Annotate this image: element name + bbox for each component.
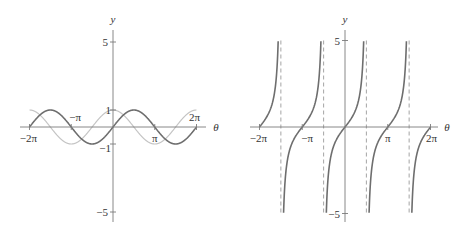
right-x-axis-label: θ	[444, 121, 450, 133]
right-x-tick-label: π	[385, 132, 391, 144]
tan-curve	[260, 41, 279, 127]
left-x-tick-label: π	[152, 132, 158, 144]
left-x-axis-label: θ	[213, 121, 219, 133]
left-labels: yθ−2π−ππ2π51−1−5	[20, 13, 219, 218]
right-labels: yθ−2π−ππ2π5−5	[250, 13, 450, 220]
left-y-tick-label: 5	[103, 36, 109, 48]
right-y-axis-label: y	[342, 13, 348, 25]
left-y-tick-label: 1	[106, 104, 112, 116]
left-y-tick-label: −1	[99, 142, 111, 154]
chart-canvas: yθ−2π−ππ2π51−1−5 yθ−2π−ππ2π5−5	[0, 0, 466, 232]
right-y-tick-label: −5	[328, 208, 340, 220]
right-x-tick-label: −2π	[250, 132, 268, 144]
left-x-tick-label: −2π	[20, 132, 38, 144]
right-x-tick-label: −π	[301, 132, 313, 144]
left-axes	[20, 30, 206, 222]
left-x-tick-label: −π	[69, 111, 81, 123]
left-y-tick-label: −5	[96, 206, 108, 218]
tan-chart: yθ−2π−ππ2π5−5	[250, 13, 450, 222]
right-x-tick-label: 2π	[426, 132, 438, 144]
right-y-tick-label: 5	[335, 35, 341, 47]
left-x-tick-label: 2π	[189, 111, 201, 123]
sin-cos-chart: yθ−2π−ππ2π51−1−5	[20, 13, 219, 222]
left-y-axis-label: y	[110, 13, 116, 25]
